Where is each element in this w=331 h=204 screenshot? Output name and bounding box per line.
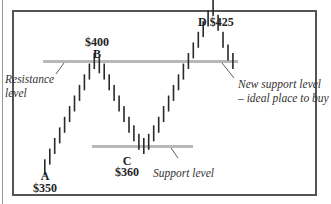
price-bar [54, 138, 56, 154]
support-leader [171, 148, 178, 158]
price-bar [183, 64, 185, 80]
point-b-letter: B [82, 48, 112, 60]
resistance-label-line1: Resistance [5, 74, 54, 86]
price-bar [128, 117, 130, 133]
support-label: Support level [153, 168, 214, 180]
price-bar [212, 0, 214, 16]
price-bar [138, 134, 140, 150]
price-bar [158, 117, 160, 133]
new-support-label-line1: New support level [238, 79, 321, 91]
price-bar [198, 32, 200, 48]
price-bar [69, 106, 71, 122]
point-d-label: D $425 [198, 16, 234, 28]
price-bar [188, 53, 190, 69]
price-bar [113, 85, 115, 101]
price-bar [222, 32, 224, 48]
price-bar [178, 74, 180, 90]
price-bar [59, 127, 61, 143]
price-bar [64, 117, 66, 133]
new-support-label-line2: – ideal place to buy [238, 93, 329, 105]
price-bar [232, 53, 234, 69]
point-a-price: $350 [28, 182, 62, 194]
price-bar [153, 125, 155, 141]
price-bar [89, 64, 91, 80]
price-bar [108, 74, 110, 90]
price-bar [148, 134, 150, 150]
price-bar [79, 85, 81, 101]
price-bar [103, 64, 105, 80]
price-bar [227, 45, 229, 61]
price-bar [74, 96, 76, 112]
price-bar [84, 74, 86, 90]
resistance-line [43, 60, 238, 63]
price-bar [123, 106, 125, 122]
price-bar [193, 42, 195, 58]
price-bar [118, 96, 120, 112]
support-line [92, 145, 193, 148]
resistance-leader [56, 63, 64, 74]
price-bar [143, 138, 145, 154]
price-bar [173, 85, 175, 101]
price-bar [49, 149, 51, 165]
price-bar [133, 125, 135, 141]
point-c-price: $360 [111, 166, 143, 178]
price-bar [163, 106, 165, 122]
price-bar [168, 96, 170, 112]
resistance-label-line2: level [5, 88, 27, 100]
